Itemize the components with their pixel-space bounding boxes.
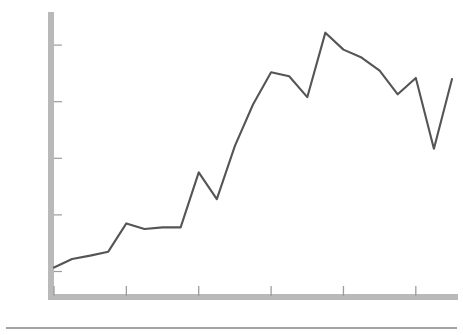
x-axis-line [48, 294, 458, 300]
y-axis-line [48, 12, 54, 300]
chart-container: Residential Construction (billions of 19… [0, 0, 463, 335]
plot-area [0, 0, 463, 335]
chart-background [0, 0, 463, 335]
